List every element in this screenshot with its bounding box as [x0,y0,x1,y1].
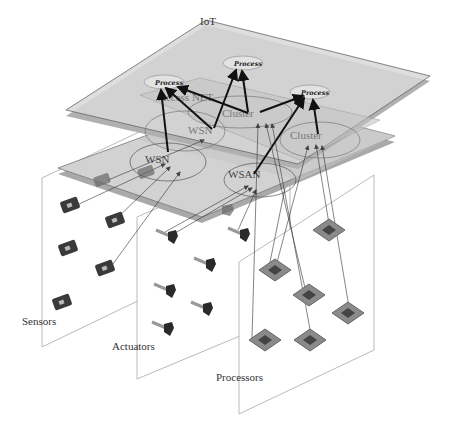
svg-text:Process: Process [154,79,183,87]
process-node-center: Process [223,56,263,70]
svg-text:Process: Process [233,60,262,68]
svg-text:Process: Process [300,89,329,97]
sensors-label: Sensors [22,315,56,327]
process-node-left: Process [144,75,184,89]
process-node-right: Process [290,85,330,99]
iot-layer-label: IoT [200,15,216,27]
processors-label: Processors [216,371,263,383]
iot-layered-architecture-diagram: IoT Access NET Cluster Cluster WSN Proce… [0,0,455,434]
actuators-label: Actuators [112,340,155,352]
